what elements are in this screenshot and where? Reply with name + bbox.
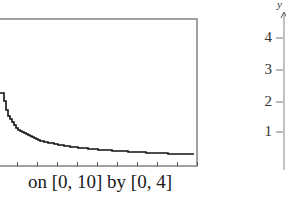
y-tick-label-1: 1	[258, 123, 272, 140]
viewing-window-frame	[0, 19, 197, 166]
y-axis-label: y	[277, 0, 282, 10]
y-tick-label-4: 4	[258, 29, 272, 46]
calculator-window-graph	[0, 0, 286, 199]
y-tick-label-2: 2	[258, 93, 272, 110]
y-tick-label-3: 3	[258, 61, 272, 78]
window-caption: on [0, 10] by [0, 4]	[0, 171, 200, 193]
